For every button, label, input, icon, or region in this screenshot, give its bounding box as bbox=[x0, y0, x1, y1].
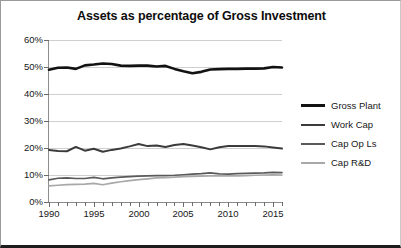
x-axis-tick bbox=[246, 202, 247, 206]
x-axis-tick-label: 2005 bbox=[166, 208, 200, 219]
x-axis-tick bbox=[112, 202, 113, 206]
x-axis-tick-label: 2000 bbox=[122, 208, 156, 219]
x-axis-tick bbox=[49, 202, 50, 207]
legend-label: Cap Op Ls bbox=[331, 138, 376, 149]
series-line bbox=[49, 63, 282, 73]
x-axis-tick bbox=[148, 202, 149, 206]
y-axis-tick-label: 10% bbox=[3, 170, 43, 179]
chart-title: Assets as percentage of Gross Investment bbox=[1, 9, 401, 23]
x-axis-tick-label: 2010 bbox=[211, 208, 245, 219]
x-axis-tick bbox=[210, 202, 211, 206]
legend-label: Work Cap bbox=[331, 119, 373, 130]
x-axis-tick bbox=[273, 202, 274, 207]
legend: Gross PlantWork CapCap Op LsCap R&D bbox=[301, 96, 399, 172]
legend-item[interactable]: Gross Plant bbox=[301, 96, 399, 115]
x-axis-tick-label: 1990 bbox=[32, 208, 66, 219]
legend-label: Cap R&D bbox=[331, 157, 371, 168]
legend-label: Gross Plant bbox=[331, 100, 381, 111]
x-axis-tick-label: 1995 bbox=[77, 208, 111, 219]
x-axis-tick bbox=[174, 202, 175, 206]
series-line bbox=[49, 175, 282, 186]
x-axis-tick bbox=[219, 202, 220, 206]
x-axis-tick bbox=[76, 202, 77, 206]
y-axis-tick-label: 40% bbox=[3, 89, 43, 98]
chart-figure: Assets as percentage of Gross Investment… bbox=[0, 0, 401, 248]
x-axis-tick bbox=[139, 202, 140, 207]
x-axis-tick bbox=[192, 202, 193, 206]
y-axis-tick-label: 20% bbox=[3, 143, 43, 152]
x-axis-tick bbox=[237, 202, 238, 206]
legend-line-icon bbox=[301, 104, 325, 107]
x-axis-tick bbox=[67, 202, 68, 206]
x-axis-tick bbox=[166, 202, 167, 206]
x-axis-tick bbox=[228, 202, 229, 207]
x-axis-tick bbox=[183, 202, 184, 207]
x-axis-tick-label: 2015 bbox=[256, 208, 290, 219]
x-axis-tick bbox=[85, 202, 86, 206]
x-axis-tick bbox=[94, 202, 95, 207]
x-axis-tick bbox=[282, 202, 283, 206]
y-axis-tick-label: 0% bbox=[3, 197, 43, 206]
y-axis-tick-label: 60% bbox=[3, 35, 43, 44]
x-axis-tick bbox=[58, 202, 59, 206]
x-axis-tick bbox=[103, 202, 104, 206]
x-axis-tick bbox=[130, 202, 131, 206]
x-axis-tick bbox=[264, 202, 265, 206]
x-axis-tick bbox=[121, 202, 122, 206]
legend-line-icon bbox=[301, 162, 325, 164]
series-lines bbox=[49, 40, 282, 202]
legend-line-icon bbox=[301, 143, 325, 145]
series-line bbox=[49, 144, 282, 152]
y-axis-tick-label: 30% bbox=[3, 116, 43, 125]
legend-item[interactable]: Cap R&D bbox=[301, 153, 399, 172]
legend-item[interactable]: Work Cap bbox=[301, 115, 399, 134]
x-axis-tick bbox=[157, 202, 158, 206]
legend-line-icon bbox=[301, 124, 325, 126]
y-axis-tick-label: 50% bbox=[3, 62, 43, 71]
x-axis-tick bbox=[255, 202, 256, 206]
x-axis-tick bbox=[201, 202, 202, 206]
legend-item[interactable]: Cap Op Ls bbox=[301, 134, 399, 153]
